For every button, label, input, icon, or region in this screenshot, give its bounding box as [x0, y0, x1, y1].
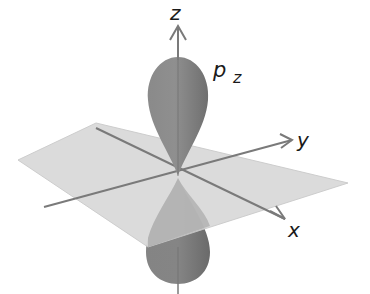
orbital-label-main: p — [212, 58, 226, 82]
orbital-label: p z — [212, 58, 242, 87]
z-axis-label: z — [169, 1, 181, 25]
y-axis-label: y — [296, 128, 310, 152]
x-axis-label: x — [287, 218, 300, 242]
pz-orbital-diagram: z y x p z — [0, 0, 370, 294]
orbital-label-subscript: z — [232, 68, 242, 87]
x-axis-arrowhead — [270, 206, 285, 219]
